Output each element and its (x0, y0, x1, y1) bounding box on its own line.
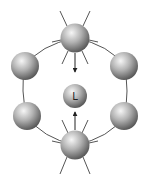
center-label: L (72, 91, 78, 102)
sphere-bottom (61, 131, 90, 160)
sphere-lower-left (13, 102, 41, 130)
sphere-upper-left (11, 52, 39, 80)
sphere-top (61, 24, 90, 53)
diagram-canvas: L (0, 0, 142, 186)
sphere-lower-right (110, 102, 138, 130)
sphere-upper-right (110, 52, 138, 80)
